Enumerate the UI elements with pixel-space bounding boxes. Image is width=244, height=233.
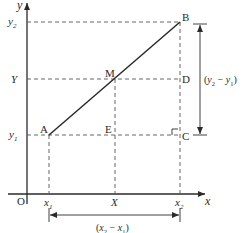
X-tick-label: X [110, 196, 119, 208]
point-B-label: B [182, 11, 189, 23]
point-E-label: E [105, 123, 112, 135]
origin-label: O [17, 195, 25, 207]
horizontal-dimension [49, 208, 180, 222]
y-axis-label: y [16, 0, 23, 12]
point-M-label: M [105, 67, 115, 79]
x1-tick-label: x1 [43, 196, 52, 211]
dashed-guides [27, 22, 180, 194]
y2-tick-label: y2 [7, 15, 17, 30]
y1-tick-label: y1 [8, 128, 17, 143]
Y-tick-label: Y [11, 73, 19, 85]
point-D-label: D [182, 73, 190, 85]
x-axis-label: x [204, 194, 211, 208]
point-C-label: C [182, 130, 189, 142]
right-angle-marker [172, 129, 178, 135]
point-A-label: A [40, 123, 48, 135]
x2-tick-label: x2 [174, 196, 184, 211]
midpoint-diagram: y x O A B M D E C y2 Y y1 x1 X x2 (y2 − … [0, 0, 244, 233]
axes [8, 3, 205, 204]
vertical-dimension-label: (y2 − y1) [204, 74, 237, 87]
